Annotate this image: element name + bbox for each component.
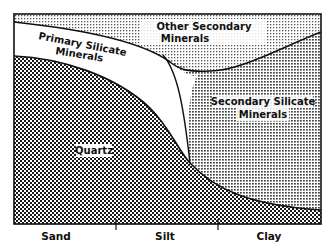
label-other-secondary-line2: Minerals: [161, 33, 209, 44]
label-other-secondary-line1: Other Secondary: [157, 21, 252, 32]
axis-label-sand: Sand: [41, 230, 71, 242]
label-quartz-text: Quartz: [75, 145, 113, 156]
label-secondary-silicate-line1: Secondary Silicate: [211, 96, 316, 107]
label-other-secondary-minerals: Other Secondary Minerals: [140, 19, 266, 45]
label-quartz: Quartz: [75, 144, 113, 157]
label-secondary-silicate-line2: Minerals: [239, 109, 287, 120]
axis-label-silt: Silt: [155, 230, 175, 242]
mineral-composition-diagram: Other Secondary Minerals Primary Silicat…: [0, 0, 331, 252]
axis-label-clay: Clay: [257, 230, 282, 242]
